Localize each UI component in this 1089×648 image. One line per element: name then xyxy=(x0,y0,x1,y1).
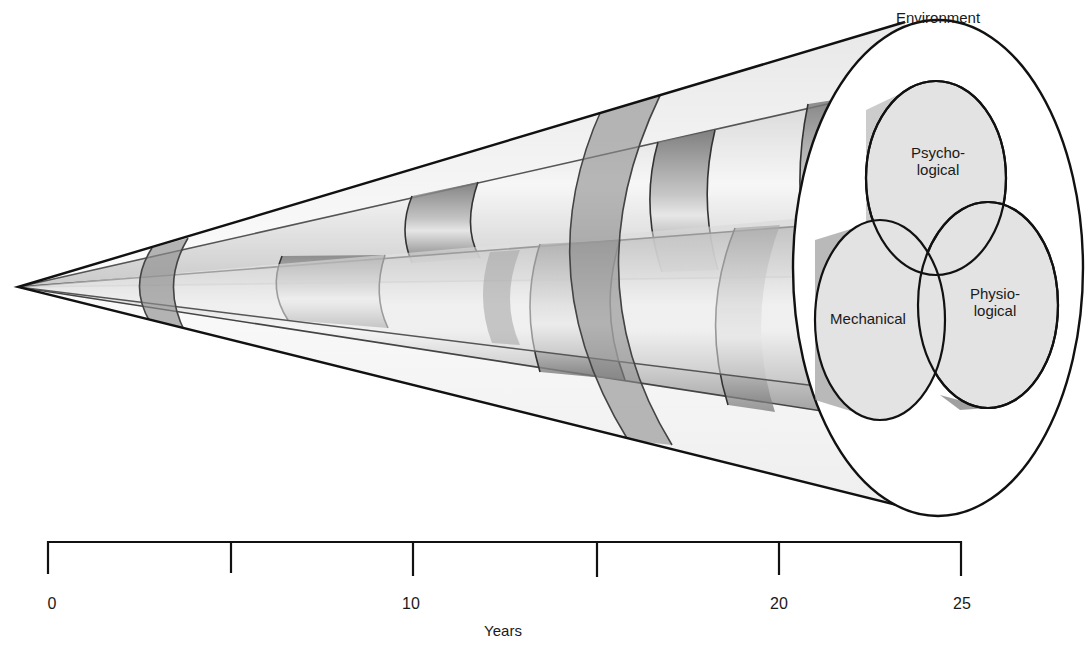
tick-label-10: 10 xyxy=(402,595,420,613)
years-axis xyxy=(48,541,962,577)
tick-label-20: 20 xyxy=(770,595,788,613)
physiological-label-line2: logical xyxy=(950,303,1040,320)
environment-label: Environment xyxy=(882,10,994,27)
psychological-label-line1: Psycho- xyxy=(893,145,983,162)
mechanical-label: Mechanical xyxy=(818,311,918,328)
psychological-label: Psycho- logical xyxy=(893,145,983,179)
tick-label-0: 0 xyxy=(48,595,57,613)
cone-diagram xyxy=(0,0,1089,648)
psychological-label-line2: logical xyxy=(893,162,983,179)
axis-title: Years xyxy=(484,622,522,639)
tick-label-25: 25 xyxy=(953,595,971,613)
physiological-label: Physio- logical xyxy=(950,286,1040,320)
physiological-label-line1: Physio- xyxy=(950,286,1040,303)
